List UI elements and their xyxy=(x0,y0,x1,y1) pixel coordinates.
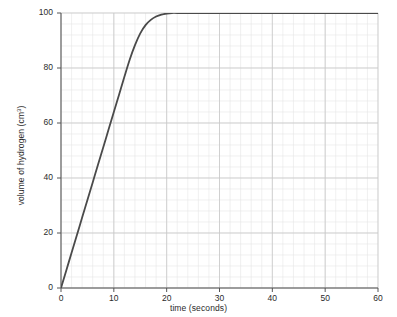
x-tick-label: 30 xyxy=(205,293,235,303)
y-tick-label: 100 xyxy=(23,7,53,17)
chart-figure: 020406080100 0102030405060 volume of hyd… xyxy=(0,0,397,317)
y-axis-title-superscript: 3 xyxy=(16,108,22,111)
y-tick-label: 20 xyxy=(23,227,53,237)
x-tick-label: 50 xyxy=(310,293,340,303)
x-tick-label: 60 xyxy=(363,293,393,303)
x-tick-label: 10 xyxy=(99,293,129,303)
x-axis-title: time (seconds) xyxy=(0,303,397,313)
y-axis-title: volume of hydrogen (cm3) xyxy=(16,90,27,220)
x-tick-label: 20 xyxy=(152,293,182,303)
x-tick-label: 0 xyxy=(46,293,76,303)
x-tick-label: 40 xyxy=(257,293,287,303)
y-tick-label: 80 xyxy=(23,62,53,72)
y-tick-label: 60 xyxy=(23,117,53,127)
y-axis-title-tail: ) xyxy=(16,106,26,109)
y-axis-title-text: volume of hydrogen (cm xyxy=(16,112,26,205)
y-tick-label: 0 xyxy=(23,282,53,292)
y-tick-label: 40 xyxy=(23,172,53,182)
chart-plot-area xyxy=(0,0,397,317)
